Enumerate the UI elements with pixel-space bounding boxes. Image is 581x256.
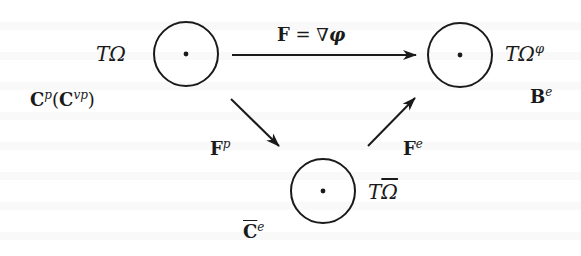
plastic-deformation-label: Fp xyxy=(210,138,230,158)
equals-nabla: = ∇ xyxy=(290,24,329,45)
tensor-superscript: e xyxy=(545,85,552,99)
current-configuration-label: TΩφ xyxy=(505,42,544,64)
omega-bar-symbol: Ω xyxy=(381,180,398,204)
paren-open: ( xyxy=(52,89,59,110)
label-base: T xyxy=(505,42,518,66)
elastic-deformation-label: Fe xyxy=(403,138,423,158)
plastic-deformation-arrow xyxy=(231,99,279,146)
reference-configuration-node xyxy=(154,22,218,86)
f-base: F xyxy=(210,138,223,159)
phi-superscript: φ xyxy=(535,41,544,56)
reference-tensor-label: Cp(Cvp) xyxy=(30,89,95,109)
tensor-base: B xyxy=(530,86,545,107)
omega-symbol: Ω xyxy=(109,42,126,66)
paren-close: ) xyxy=(88,89,95,110)
tensor-paren-superscript: vp xyxy=(73,88,87,102)
intermediate-configuration-label: TΩ xyxy=(368,182,398,202)
intermediate-configuration-node xyxy=(291,159,355,223)
label-base: T xyxy=(368,180,381,204)
deformation-gradient-symbol: F xyxy=(277,24,290,45)
total-deformation-label: F = ∇φ xyxy=(277,26,345,44)
tensor-base-bar: C xyxy=(243,221,257,242)
e-superscript: e xyxy=(416,137,423,151)
intermediate-tensor-label: Ce xyxy=(243,221,264,241)
tensor-superscript: p xyxy=(44,88,52,102)
reference-configuration-label: TΩ xyxy=(96,44,126,64)
tensor-base: C xyxy=(30,89,44,110)
label-base: T xyxy=(96,42,109,66)
f-base: F xyxy=(403,138,416,159)
tensor-paren-base: C xyxy=(59,89,73,110)
phi-symbol: φ xyxy=(329,24,345,45)
p-superscript: p xyxy=(223,137,231,151)
diagram-canvas: TΩ Cp(Cvp) TΩφ Be TΩ Ce F = ∇φ Fp Fe xyxy=(0,0,581,256)
tensor-superscript: e xyxy=(257,220,264,234)
current-configuration-node xyxy=(428,23,492,87)
omega-symbol: Ω xyxy=(518,42,535,66)
current-tensor-label: Be xyxy=(530,86,552,106)
